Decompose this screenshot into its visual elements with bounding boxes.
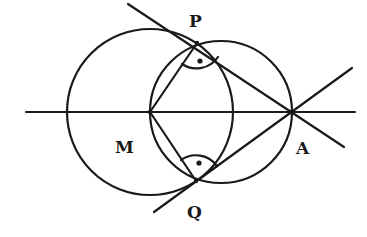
geometry-diagram: P Q M A	[0, 0, 367, 237]
tangent-line-AQ	[154, 68, 352, 212]
point-A	[289, 110, 293, 114]
segment-MQ	[150, 112, 196, 181]
label-P: P	[189, 11, 202, 31]
segment-MP	[150, 43, 197, 112]
point-M	[148, 110, 152, 114]
point-Q	[194, 179, 198, 183]
angle-dot-P	[197, 58, 202, 63]
label-M: M	[115, 137, 134, 157]
angle-dot-Q	[196, 160, 201, 165]
point-P	[195, 41, 199, 45]
label-A: A	[295, 138, 310, 158]
label-Q: Q	[187, 202, 202, 222]
